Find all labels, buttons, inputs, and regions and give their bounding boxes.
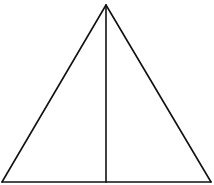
triangle-left-side [2, 5, 106, 182]
diagram-canvas [0, 0, 214, 185]
triangle-diagram [0, 0, 214, 185]
triangle-right-side [106, 5, 211, 182]
